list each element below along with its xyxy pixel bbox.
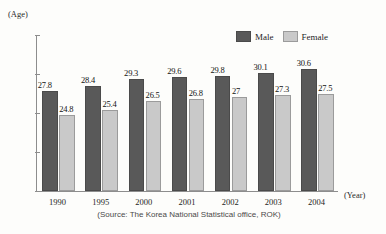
bar-male-2000[interactable] bbox=[129, 79, 145, 191]
y-axis-tick bbox=[35, 74, 40, 75]
bar-chart: (Age) (Year) Male Female 3530253015 27.8… bbox=[0, 0, 386, 234]
bar-value-label: 29.3 bbox=[124, 68, 138, 78]
bar-value-label: 27.3 bbox=[275, 84, 289, 94]
x-axis-tick-label: 1990 bbox=[36, 197, 79, 207]
bar-value-label: 28.4 bbox=[81, 75, 95, 85]
bar-male-1995[interactable] bbox=[85, 86, 101, 191]
x-axis-tick-label: 1995 bbox=[79, 197, 122, 207]
bar-value-label: 24.8 bbox=[59, 104, 73, 114]
y-axis-tick bbox=[35, 191, 40, 192]
bar-female-2002[interactable] bbox=[232, 97, 248, 191]
bar-value-label: 29.8 bbox=[210, 65, 224, 75]
bar-female-2000[interactable] bbox=[146, 101, 162, 191]
bar-group: 28.425.4 bbox=[85, 35, 118, 191]
bar-male-2002[interactable] bbox=[215, 76, 231, 191]
x-axis-tick-label: 2001 bbox=[165, 197, 208, 207]
bar-value-label: 30.6 bbox=[297, 58, 311, 68]
bar-group: 30.627.5 bbox=[301, 35, 334, 191]
x-axis-tick-label: 2004 bbox=[295, 197, 338, 207]
bar-female-1990[interactable] bbox=[59, 115, 75, 191]
bar-group: 30.127.3 bbox=[258, 35, 291, 191]
bar-group: 29.326.5 bbox=[129, 35, 162, 191]
y-axis-tick bbox=[35, 113, 40, 114]
bar-value-label: 27 bbox=[232, 86, 240, 96]
y-axis-unit-label: (Age) bbox=[8, 9, 28, 19]
bar-value-label: 27.5 bbox=[318, 83, 332, 93]
bar-male-2004[interactable] bbox=[301, 69, 317, 191]
x-axis-line bbox=[36, 191, 338, 192]
bar-value-label: 27.8 bbox=[38, 80, 52, 90]
plot-area: 3530253015 27.824.828.425.429.326.529.62… bbox=[36, 35, 338, 192]
y-axis-tick bbox=[35, 35, 40, 36]
bar-group: 29.827 bbox=[215, 35, 248, 191]
bar-male-1990[interactable] bbox=[42, 91, 58, 191]
bar-male-2003[interactable] bbox=[258, 73, 274, 191]
bar-male-2001[interactable] bbox=[172, 77, 188, 191]
bar-value-label: 29.6 bbox=[167, 66, 181, 76]
bar-female-1995[interactable] bbox=[102, 110, 118, 191]
source-note: (Source: The Korea National Statistical … bbox=[0, 210, 378, 219]
bar-female-2003[interactable] bbox=[275, 95, 291, 191]
bar-value-label: 25.4 bbox=[102, 99, 116, 109]
bar-value-label: 26.5 bbox=[146, 90, 160, 100]
bar-group: 27.824.8 bbox=[42, 35, 75, 191]
bar-group: 29.626.8 bbox=[172, 35, 205, 191]
bar-value-label: 30.1 bbox=[254, 62, 268, 72]
x-axis-tick-label: 2000 bbox=[122, 197, 165, 207]
y-axis-tick bbox=[35, 152, 40, 153]
x-axis-tick-label: 2003 bbox=[252, 197, 295, 207]
x-axis-unit-label: (Year) bbox=[344, 190, 365, 200]
x-axis-tick-label: 2002 bbox=[209, 197, 252, 207]
bar-value-label: 26.8 bbox=[189, 88, 203, 98]
bar-female-2001[interactable] bbox=[189, 99, 205, 191]
bar-female-2004[interactable] bbox=[318, 94, 334, 192]
